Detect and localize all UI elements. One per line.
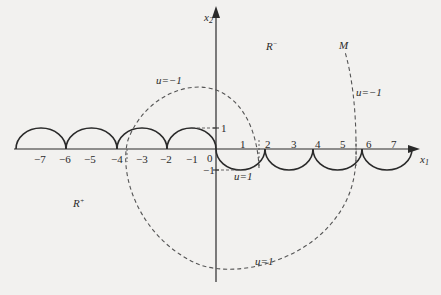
x-tick-label: −4 xyxy=(111,154,123,165)
y-tick-label: −1 xyxy=(203,165,215,176)
x-tick-label: 7 xyxy=(391,139,397,150)
x-tick-label: 0 xyxy=(207,153,213,164)
x-tick-label: −7 xyxy=(34,154,46,165)
switching-curve-right xyxy=(216,149,412,170)
y-axis-label: x2 xyxy=(204,12,213,26)
switching-curve-label: M xyxy=(339,40,348,51)
y-axis-arrow-icon xyxy=(212,6,220,18)
region-r-plus-label: R+ xyxy=(73,196,84,209)
x-tick-label: −2 xyxy=(160,154,172,165)
u-one-outer-label: u=1 xyxy=(255,256,273,267)
switching-curve-left xyxy=(16,128,216,149)
x-axis-arrow-icon xyxy=(408,145,420,153)
x-tick-label: −3 xyxy=(136,154,148,165)
x-tick-label: 2 xyxy=(265,139,271,150)
x-tick-label: −1 xyxy=(186,154,198,165)
phase-plane-diagram: x2 x1 −7 −6 −5 −4 −3 −2 −1 0 1 2 3 4 5 6… xyxy=(0,0,441,295)
x-tick-label: 5 xyxy=(340,139,346,150)
x-tick-label: −6 xyxy=(59,154,71,165)
u-minus-one-inner-label: u=−1 xyxy=(156,75,182,86)
region-r-minus-label: R− xyxy=(266,39,277,52)
u-minus-one-outer-label: u=−1 xyxy=(356,87,382,98)
u-one-inner-label: u=1 xyxy=(234,171,252,182)
x-tick-label: 4 xyxy=(315,139,321,150)
x-tick-label: −5 xyxy=(84,154,96,165)
x-axis-label: x1 xyxy=(420,154,429,168)
x-tick-label: 6 xyxy=(366,139,372,150)
y-tick-label: 1 xyxy=(221,123,227,134)
x-tick-label: 1 xyxy=(240,139,246,150)
diagram-graphics xyxy=(0,0,441,295)
x-tick-label: 3 xyxy=(291,139,297,150)
